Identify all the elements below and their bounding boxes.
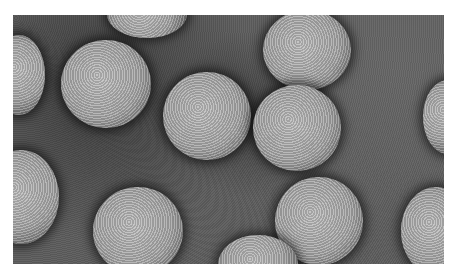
micrograph-image <box>13 15 444 264</box>
virus-particle <box>163 72 251 160</box>
virus-particle <box>61 40 151 128</box>
virus-particle <box>253 85 341 171</box>
